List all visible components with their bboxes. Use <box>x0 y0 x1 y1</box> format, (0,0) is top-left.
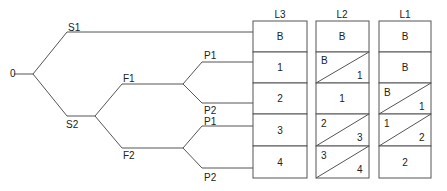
f1-label: F1 <box>123 73 135 84</box>
cell-value: B <box>402 31 409 42</box>
cell-value: B <box>402 62 409 73</box>
f1-p1-label: P1 <box>204 50 217 61</box>
root-label: 0 <box>10 68 16 79</box>
f2-p2-label: P2 <box>204 172 217 183</box>
cell-value: 2 <box>277 93 283 104</box>
cell-top-value: 2 <box>321 118 327 129</box>
cell-top-value: 1 <box>384 118 390 129</box>
cell-value: 2 <box>402 157 408 168</box>
column-header: L1 <box>399 9 411 20</box>
cell-bottom-value: 2 <box>419 132 425 143</box>
f2-label: F2 <box>123 150 135 161</box>
f1-p2-label: P2 <box>204 105 217 116</box>
s2-label: S2 <box>66 119 79 130</box>
cell-value: 1 <box>277 62 283 73</box>
cell-top-value: B <box>384 87 391 98</box>
cell-bottom-value: 1 <box>357 70 363 81</box>
cell-top-value: 3 <box>321 150 327 161</box>
cell-bottom-value: 1 <box>419 101 425 112</box>
column-l2: L2 B B 1 1 2 3 3 4 <box>316 9 369 178</box>
cell-value: B <box>277 31 284 42</box>
f2-p1-label: P1 <box>204 116 217 127</box>
cell-top-value: B <box>321 55 328 66</box>
column-header: L3 <box>274 9 286 20</box>
cell-bottom-value: 3 <box>357 132 363 143</box>
column-l3: L3 B 1 2 3 4 <box>253 9 307 178</box>
cell-bottom-value: 4 <box>357 164 363 175</box>
column-header: L2 <box>336 9 348 20</box>
cell-value: 1 <box>339 93 345 104</box>
s1-label: S1 <box>68 22 81 33</box>
cell-value: 4 <box>277 157 283 168</box>
column-l1: L1 B B B 1 1 2 2 <box>379 9 431 178</box>
cell-value: 3 <box>277 125 283 136</box>
tree-branches <box>14 32 253 168</box>
decision-tree-diagram: 0 S1 S2 F1 F2 P1 P2 P1 P2 L3 B 1 2 3 4 L… <box>0 0 447 191</box>
cell-value: B <box>339 31 346 42</box>
